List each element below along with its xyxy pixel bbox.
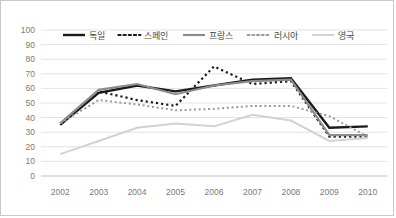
chart-legend: 독일스페인프랑스러시아영국 [63, 30, 354, 41]
series-line-영국 [60, 115, 368, 154]
x-tick-label: 2006 [205, 187, 224, 197]
x-tick-label: 2002 [51, 187, 70, 197]
chart-svg: 0102030405060708090100 20022003200420052… [1, 1, 395, 217]
legend-label-독일[interactable]: 독일 [89, 31, 105, 41]
legend-label-스페인[interactable]: 스페인 [144, 31, 168, 41]
x-tick-label: 2010 [358, 187, 377, 197]
y-tick-label: 100 [21, 25, 35, 35]
y-tick-label: 80 [26, 54, 36, 64]
x-tick-label: 2008 [281, 187, 300, 197]
y-tick-label: 10 [26, 156, 36, 166]
x-axis-tick-labels: 200220032004200520062007200820092010 [51, 187, 378, 197]
y-tick-label: 90 [26, 40, 36, 50]
x-tick-label: 2007 [243, 187, 262, 197]
legend-label-러시아[interactable]: 러시아 [274, 31, 299, 41]
y-tick-label: 40 [26, 113, 36, 123]
y-axis-tick-labels: 0102030405060708090100 [21, 25, 35, 181]
legend-label-영국[interactable]: 영국 [338, 31, 354, 41]
x-tick-label: 2009 [320, 187, 339, 197]
x-tick-label: 2003 [89, 187, 108, 197]
legend-label-프랑스[interactable]: 프랑스 [209, 30, 233, 41]
line-chart: 0102030405060708090100 20022003200420052… [1, 1, 395, 217]
x-tick-label: 2004 [128, 187, 147, 197]
y-tick-label: 0 [30, 171, 35, 181]
x-tick-label: 2005 [166, 187, 185, 197]
y-tick-label: 70 [26, 69, 36, 79]
series-lines [60, 67, 368, 155]
y-tick-label: 60 [26, 83, 36, 93]
y-tick-label: 30 [26, 127, 36, 137]
y-tick-label: 50 [26, 98, 36, 108]
y-tick-label: 20 [26, 142, 36, 152]
chart-frame: 0102030405060708090100 20022003200420052… [0, 0, 394, 216]
